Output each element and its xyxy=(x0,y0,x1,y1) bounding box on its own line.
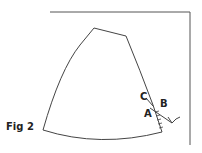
label-a: A xyxy=(144,108,152,119)
pattern-piece-outline xyxy=(43,28,162,140)
label-c: C xyxy=(140,91,147,102)
frame-border xyxy=(50,12,190,145)
figure-caption: Fig 2 xyxy=(6,121,34,132)
label-b: B xyxy=(160,98,168,109)
